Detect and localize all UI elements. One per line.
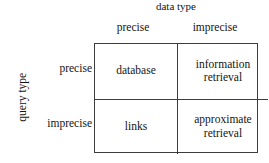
column-axis-title: data type [0, 1, 269, 13]
cell-text-line2: retrieval [180, 127, 266, 141]
row-header-precise: precise [22, 62, 92, 74]
column-header-precise: precise [94, 21, 172, 33]
cell-text-line1: links [97, 120, 175, 134]
cell-text-line1: database [97, 64, 175, 78]
matrix-table: database information retrieval links app… [95, 44, 268, 154]
row-header-imprecise: imprecise [18, 117, 92, 129]
matrix-grid: database information retrieval links app… [94, 43, 258, 153]
classification-matrix-figure: data type precise imprecise query type p… [0, 0, 269, 163]
column-header-imprecise: imprecise [172, 21, 258, 33]
cell-text-line1: information [180, 58, 266, 72]
cell-text-line2: retrieval [180, 71, 266, 85]
cell-imprecise-imprecise: approximate retrieval [178, 99, 269, 154]
cell-precise-precise: database [95, 44, 178, 99]
cell-text-line1: approximate [180, 113, 266, 127]
cell-precise-imprecise: information retrieval [178, 44, 269, 99]
table-row: database information retrieval [95, 44, 268, 99]
cell-imprecise-precise: links [95, 99, 178, 154]
table-row: links approximate retrieval [95, 99, 268, 154]
